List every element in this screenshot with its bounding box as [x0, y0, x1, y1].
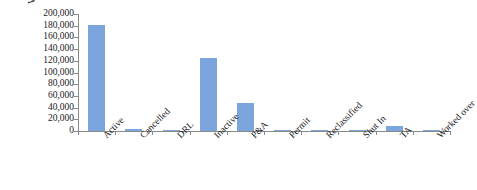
- plot-area: [78, 14, 450, 131]
- y-tick-mark: [74, 61, 78, 62]
- bar: [88, 25, 105, 131]
- y-axis-tick-label: 80,000: [48, 79, 74, 89]
- y-tick-mark: [74, 14, 78, 15]
- y-axis-tick-label: 60,000: [48, 91, 74, 101]
- y-axis-tick-label: 200,000: [43, 9, 74, 19]
- y-axis-tick-label: 180,000: [43, 21, 74, 31]
- y-tick-mark: [74, 84, 78, 85]
- y-tick-mark: [74, 73, 78, 74]
- y-tick-mark: [74, 119, 78, 120]
- y-tick-mark: [74, 26, 78, 27]
- x-axis-tick-labels: ActiveCancelledDRLInactiveP&APermitRecla…: [78, 133, 450, 190]
- bar-series: [78, 14, 450, 131]
- y-axis-tick-label: 160,000: [43, 33, 74, 43]
- bar: [200, 58, 217, 131]
- y-tick-mark: [74, 37, 78, 38]
- y-tick-mark: [74, 108, 78, 109]
- y-axis-tick-label: 120,000: [43, 56, 74, 66]
- y-tick-mark: [74, 49, 78, 50]
- y-axis-tick-label: 20,000: [48, 115, 74, 125]
- y-axis-tick-label: 140,000: [43, 44, 74, 54]
- y-tick-mark: [74, 96, 78, 97]
- y-axis-tick-labels: 200,000180,000160,000140,000120,000100,0…: [26, 14, 76, 132]
- y-axis-tick-label: 100,000: [43, 68, 74, 78]
- y-axis-tick-label: 40,000: [48, 103, 74, 113]
